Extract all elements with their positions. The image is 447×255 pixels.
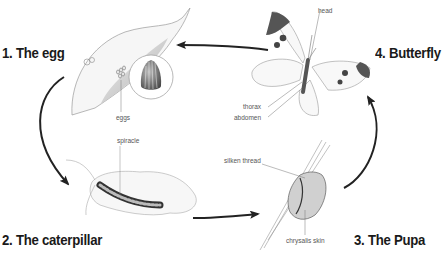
part-label-chrysalis-skin: chrysalis skin (286, 237, 325, 244)
stage-title-pupa: 3. The Pupa (354, 231, 425, 248)
stage-title-egg: 1. The egg (2, 44, 65, 61)
arrow-egg-to-caterpillar (40, 77, 68, 184)
egg-leaf-illustration (72, 8, 190, 115)
caterpillar-leaf-illustration (66, 146, 196, 215)
part-label-thorax: thorax (243, 103, 261, 110)
life-cycle-illustration (0, 0, 447, 255)
part-label-eggs: eggs (116, 114, 130, 121)
stage-title-caterpillar: 2. The caterpillar (2, 231, 102, 248)
silken-thread-leader-line (262, 164, 305, 178)
head-leader-line (310, 10, 320, 60)
arrow-caterpillar-to-pupa (193, 214, 258, 218)
arrow-butterfly-to-egg (178, 45, 268, 50)
part-label-silken-thread: silken thread (224, 157, 261, 164)
part-label-head: head (318, 7, 332, 14)
egg-magnified-inset (129, 55, 173, 99)
arrow-pupa-to-butterfly (344, 97, 377, 188)
stage-title-butterfly: 4. Butterfly (375, 44, 441, 61)
part-label-spiracle: spiracle (117, 137, 139, 144)
butterfly-illustration (252, 10, 370, 117)
part-label-abdomen: abdomen (234, 114, 261, 121)
pupa-illustration (260, 140, 330, 250)
